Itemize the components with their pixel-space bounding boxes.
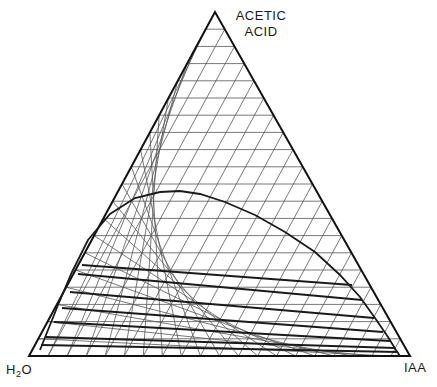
water-h: H (6, 362, 16, 377)
acetic-acid-line1: ACETIC (226, 8, 296, 24)
vertex-label-acetic-acid: ACETIC ACID (226, 8, 296, 40)
acetic-acid-line2: ACID (226, 24, 296, 40)
water-o: O (21, 362, 32, 377)
vertex-label-water: H2O (6, 362, 32, 382)
ternary-diagram (0, 0, 437, 387)
tie-line (82, 265, 352, 285)
triangular-grid (38, 29, 400, 356)
vertex-label-iaa: IAA (404, 360, 426, 376)
